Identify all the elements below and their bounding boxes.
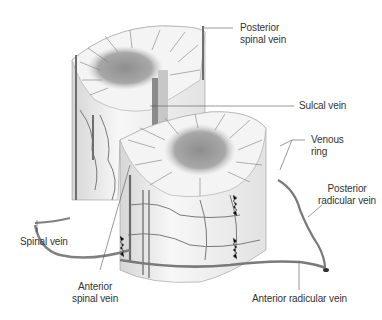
- gray-matter-upper: [87, 46, 163, 90]
- illustration: [0, 0, 382, 320]
- label-venous-ring: Venous ring: [311, 134, 344, 158]
- cord-lower-segment: [120, 112, 266, 283]
- label-sulcal-vein: Sulcal vein: [299, 100, 346, 112]
- label-anterior-spinal-vein: Anterior spinal vein: [72, 281, 118, 305]
- label-anterior-radicular-vein: Anterior radicular vein: [252, 293, 347, 305]
- label-posterior-spinal-vein: Posterior spinal vein: [240, 22, 286, 46]
- spinal-cord-venous-diagram: Posterior spinal vein Sulcal vein Venous…: [0, 0, 382, 320]
- vein-cut-end: [323, 268, 329, 272]
- label-spinal-vein: Spinal vein: [20, 236, 68, 248]
- label-posterior-radicular-vein: Posterior radicular vein: [318, 183, 376, 207]
- gray-matter-lower: [164, 124, 236, 176]
